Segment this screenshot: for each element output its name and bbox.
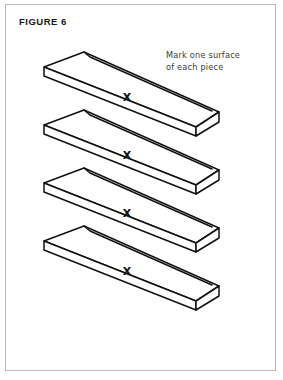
surface-mark-x-2: X [123, 149, 132, 162]
surface-mark-x-3: X [123, 207, 132, 220]
boards-drawing: X X X X [6, 5, 277, 372]
figure-panel: FIGURE 6 Mark one surface of each piece … [5, 4, 276, 371]
surface-mark-x-1: X [123, 91, 132, 104]
surface-mark-x-4: X [123, 265, 132, 278]
